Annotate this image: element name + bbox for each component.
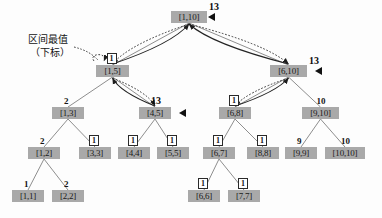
tree-node[interactable]: [6,10] xyxy=(270,65,307,77)
node-value-badge: 1 xyxy=(257,135,267,146)
node-value-label: 10 xyxy=(341,136,350,146)
tree-edge xyxy=(68,77,113,107)
node-value-badge: 1 xyxy=(89,135,99,146)
segment-tree-figure: 区间最值 （下标） [1,10]13[1,5]1[6,10]13[1,3]2[4… xyxy=(0,0,382,218)
tree-node[interactable]: [7,7] xyxy=(228,190,260,202)
tree-edge xyxy=(113,23,190,65)
tree-edge xyxy=(113,77,156,107)
tree-edge xyxy=(235,77,289,107)
tree-node[interactable]: [10,10] xyxy=(325,147,365,159)
selection-marker-icon xyxy=(315,67,322,75)
node-value-label: 2 xyxy=(40,136,45,146)
tree-node[interactable]: [2,2] xyxy=(52,190,84,202)
tree-node[interactable]: [6,8] xyxy=(219,107,251,119)
node-value-badge: 1 xyxy=(128,135,138,146)
selection-marker-icon xyxy=(179,109,186,117)
node-value-label: 13 xyxy=(151,96,161,106)
tree-node[interactable]: [6,6] xyxy=(188,190,220,202)
tree-node[interactable]: [1,3] xyxy=(52,107,84,119)
node-value-badge: 1 xyxy=(238,178,248,189)
tree-node[interactable]: [1,10] xyxy=(171,11,207,23)
tree-node[interactable]: [1,1] xyxy=(12,190,44,202)
tree-node[interactable]: [9,9] xyxy=(285,147,317,159)
node-value-badge: 1 xyxy=(167,135,177,146)
tree-node[interactable]: [5,5] xyxy=(157,147,189,159)
node-value-label: 2 xyxy=(64,179,69,189)
node-value-label: 2 xyxy=(64,96,69,106)
annotation-leader-line xyxy=(74,47,98,60)
node-value-badge: 1 xyxy=(198,178,208,189)
node-value-label: 9 xyxy=(297,136,302,146)
annotation-line-2: （下标） xyxy=(30,46,70,59)
tree-node[interactable]: [9,10] xyxy=(302,107,339,119)
tree-edge xyxy=(189,23,289,65)
tree-node[interactable]: [6,7] xyxy=(203,147,235,159)
node-value-label: 13 xyxy=(209,2,219,12)
tree-node[interactable]: [1,2] xyxy=(28,147,60,159)
tree-node[interactable]: [3,3] xyxy=(79,147,111,159)
node-value-label: 13 xyxy=(309,56,319,66)
node-value-label: 1 xyxy=(24,179,29,189)
node-value-badge: 1 xyxy=(107,53,117,64)
node-value-label: 10 xyxy=(317,96,326,106)
tree-node[interactable]: [4,5] xyxy=(139,107,171,119)
self-loop-left-subtree xyxy=(93,55,105,61)
tree-edge xyxy=(301,119,321,147)
tree-node[interactable]: [1,5] xyxy=(96,65,129,77)
selection-marker-icon xyxy=(208,13,215,21)
annotation-line-1: 区间最值 xyxy=(28,33,68,46)
tree-node[interactable]: [4,4] xyxy=(118,147,150,159)
node-value-badge: 1 xyxy=(229,95,239,106)
tree-edge xyxy=(44,119,68,147)
tree-node[interactable]: [8,8] xyxy=(247,147,279,159)
node-value-badge: 1 xyxy=(213,135,223,146)
tree-edge xyxy=(28,159,44,190)
